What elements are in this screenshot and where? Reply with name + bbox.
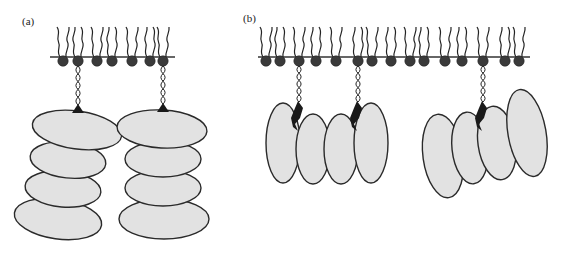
anchored-protein	[12, 66, 125, 245]
lipid-tail	[260, 27, 263, 57]
lipid-head	[331, 56, 341, 66]
lipid-tail	[269, 27, 272, 57]
lipid-head	[73, 56, 83, 66]
lipid-head	[478, 56, 488, 66]
lipid-head	[58, 56, 68, 66]
lipid-tails-a	[57, 27, 169, 57]
lipid-tail	[394, 27, 396, 57]
lipid-tail	[91, 27, 94, 57]
lipid-head	[275, 56, 285, 66]
lipid-tail	[465, 27, 467, 57]
lipid-tail	[126, 27, 129, 57]
lipid-tails-b	[260, 27, 525, 57]
lipid-tail	[135, 27, 138, 57]
lipid-tail	[311, 27, 313, 57]
lipid-head	[405, 56, 415, 66]
anchored-proteins-a	[12, 66, 209, 245]
lipid-tail	[302, 27, 305, 57]
anchored-protein	[417, 86, 553, 200]
lipid-tail	[375, 27, 378, 57]
lipid-tail	[153, 27, 155, 57]
lipid-tail	[81, 27, 83, 57]
lipid-tail	[386, 27, 388, 57]
lipid-head	[145, 56, 155, 66]
lipid-heads-a	[58, 56, 168, 66]
lipid-heads-b	[261, 56, 524, 66]
lipid-tail	[448, 27, 451, 57]
lipid-tail	[319, 27, 321, 57]
lipid-tail	[513, 27, 516, 57]
lipid-tail	[413, 27, 416, 57]
lipid-tail	[522, 27, 525, 57]
anchored-proteins-b	[266, 66, 553, 200]
lipid-tail	[353, 27, 355, 57]
lipid-tail	[293, 27, 296, 57]
lipid-head	[107, 56, 117, 66]
anchor-triangle	[157, 103, 169, 112]
lipid-tail	[339, 27, 342, 57]
lipid-tail	[439, 27, 442, 57]
lipid-tail	[145, 27, 147, 57]
lipid-tail	[115, 27, 117, 57]
anchor-triangle	[72, 104, 84, 113]
lipid-tail	[57, 27, 60, 57]
panel-b-label: (b)	[243, 12, 256, 25]
lipid-tail	[427, 27, 429, 57]
lipid-tail	[500, 27, 502, 57]
lipid-tail	[477, 27, 480, 57]
lipid-tail	[66, 27, 69, 57]
lipid-head	[386, 56, 396, 66]
lipid-head	[353, 56, 363, 66]
lipid-head	[261, 56, 271, 66]
lipid-head	[294, 56, 304, 66]
lipid-tail	[330, 27, 333, 57]
lipid-tail	[166, 27, 169, 57]
lipid-tail	[73, 27, 75, 57]
panel-a-label: (a)	[22, 15, 35, 28]
lipid-head	[92, 56, 102, 66]
lipid-tail	[275, 27, 277, 57]
lipid-tail	[100, 27, 103, 57]
lipid-tail	[107, 27, 109, 57]
lipid-head	[419, 56, 429, 66]
lipid-head	[457, 56, 467, 66]
lipid-head	[514, 56, 524, 66]
panel-a: (a)	[12, 15, 209, 245]
lipid-head	[440, 56, 450, 66]
lipid-tail	[508, 27, 510, 57]
lipid-head	[127, 56, 137, 66]
anchor	[291, 66, 303, 131]
lipid-tail	[157, 27, 160, 57]
panel-b: (b)	[243, 12, 553, 200]
anchored-protein	[116, 66, 209, 239]
membrane-protein-diagram: (a) (b)	[0, 0, 563, 255]
lipid-head	[367, 56, 377, 66]
lipid-tail	[404, 27, 407, 57]
lipid-tail	[366, 27, 369, 57]
lipid-tail	[486, 27, 489, 57]
lipid-tail	[457, 27, 459, 57]
lipid-tail	[419, 27, 421, 57]
lipid-head	[158, 56, 168, 66]
lipid-tail	[361, 27, 363, 57]
anchored-protein	[266, 103, 388, 184]
lipid-head	[500, 56, 510, 66]
lipid-tail	[283, 27, 285, 57]
lipid-head	[311, 56, 321, 66]
protein-subunit	[116, 108, 208, 151]
